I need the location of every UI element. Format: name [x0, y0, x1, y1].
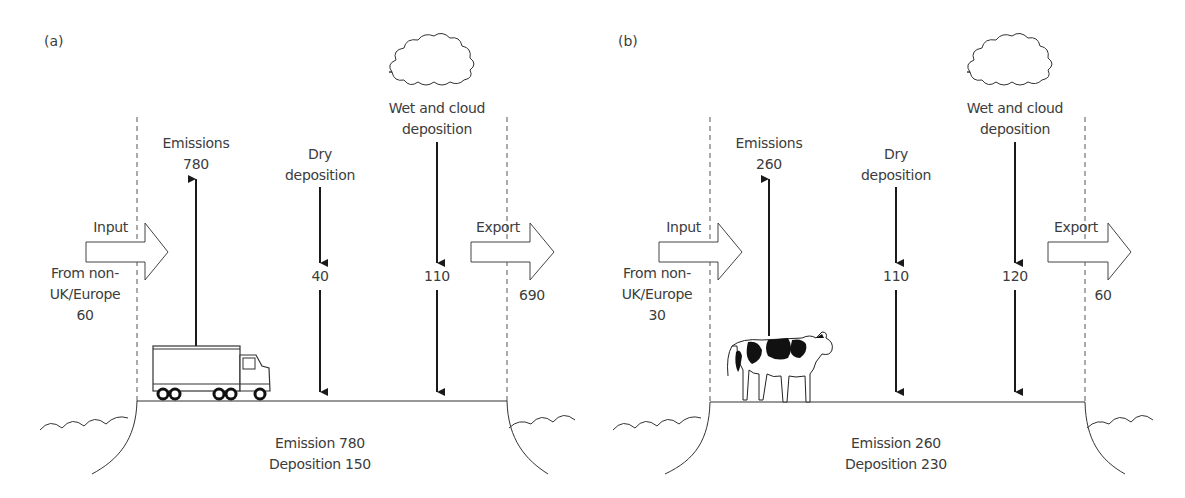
input-source-line2: UK/Europe	[40, 284, 130, 305]
cloud-icon	[389, 33, 474, 85]
input-value: 30	[612, 305, 702, 326]
export-value: 60	[1088, 285, 1118, 306]
input-label: Input	[653, 217, 701, 238]
input-source-line1: From non-	[40, 263, 130, 284]
panel-tag-b: (b)	[618, 33, 638, 49]
cow-icon	[728, 332, 833, 402]
wet-deposition-value: 120	[995, 266, 1035, 287]
emissions-value: 780	[156, 154, 236, 175]
emissions-label: Emissions 260	[729, 133, 809, 175]
wet-label-line1: Wet and cloud	[372, 98, 502, 119]
wet-label-line2: deposition	[372, 119, 502, 140]
summary-emission: Emission 260	[826, 433, 966, 454]
truck-icon	[153, 346, 270, 399]
sea-waves-left	[40, 417, 128, 430]
export-value: 690	[512, 285, 552, 306]
input-value: 60	[40, 305, 130, 326]
dry-deposition-label: Dry deposition	[846, 144, 946, 186]
export-label: Export	[1046, 217, 1106, 238]
input-source-line1: From non-	[612, 263, 702, 284]
summary-emission: Emission 780	[250, 433, 390, 454]
emissions-label-text: Emissions	[156, 133, 236, 154]
wet-label-line2: deposition	[950, 119, 1080, 140]
budget-diagram	[0, 0, 1185, 498]
dry-label-line1: Dry	[270, 144, 370, 165]
input-source: From non- UK/Europe 60	[40, 263, 130, 326]
cliff-left	[665, 402, 710, 474]
cliff-right	[1085, 402, 1125, 474]
wet-label-line1: Wet and cloud	[950, 98, 1080, 119]
summary-deposition: Deposition 230	[826, 454, 966, 475]
summary-deposition: Deposition 150	[250, 454, 390, 475]
budget-summary: Emission 260 Deposition 230	[826, 433, 966, 475]
wet-deposition-label: Wet and cloud deposition	[950, 98, 1080, 140]
dry-label-line1: Dry	[846, 144, 946, 165]
sea-waves-right	[509, 415, 575, 428]
cloud-icon	[967, 33, 1052, 85]
wet-deposition-value: 110	[417, 266, 457, 287]
emissions-label: Emissions 780	[156, 133, 236, 175]
dry-deposition-value: 110	[876, 266, 916, 287]
input-source: From non- UK/Europe 30	[612, 263, 702, 326]
panel-tag-a: (a)	[44, 33, 64, 49]
emissions-value: 260	[729, 154, 809, 175]
export-label: Export	[468, 217, 528, 238]
input-source-line2: UK/Europe	[612, 284, 702, 305]
dry-label-line2: deposition	[846, 165, 946, 186]
sea-waves-left	[613, 417, 701, 430]
input-label: Input	[80, 217, 128, 238]
cliff-right	[507, 401, 548, 474]
budget-summary: Emission 780 Deposition 150	[250, 433, 390, 475]
dry-label-line2: deposition	[270, 165, 370, 186]
dry-deposition-label: Dry deposition	[270, 144, 370, 186]
emissions-label-text: Emissions	[729, 133, 809, 154]
wet-deposition-label: Wet and cloud deposition	[372, 98, 502, 140]
dry-deposition-value: 40	[300, 266, 340, 287]
sea-waves-right	[1087, 415, 1153, 428]
cliff-left	[92, 401, 137, 474]
